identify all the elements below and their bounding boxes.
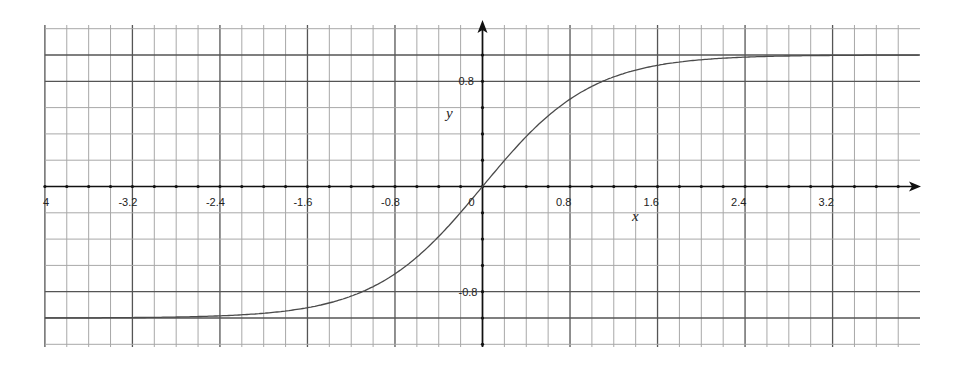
y-tick-mark (481, 238, 484, 241)
x-tick-mark (590, 185, 593, 188)
x-tick-mark (525, 185, 528, 188)
x-tick-mark (853, 185, 856, 188)
x-tick-mark (568, 185, 571, 188)
x-tick-label: 4 (43, 196, 49, 208)
x-tick-mark (109, 185, 112, 188)
x-tick-mark (328, 185, 331, 188)
y-tick-mark (481, 316, 484, 319)
x-tick-mark (700, 185, 703, 188)
y-tick-mark (481, 106, 484, 109)
axes (43, 20, 921, 347)
x-tick-label: 2.4 (731, 196, 746, 208)
x-tick-mark (678, 185, 681, 188)
y-tick-mark (481, 53, 484, 56)
x-tick-mark (240, 185, 243, 188)
x-tick-mark (612, 185, 615, 188)
x-tick-mark (897, 185, 900, 188)
y-tick-mark (481, 132, 484, 135)
x-tick-mark (875, 185, 878, 188)
x-tick-label: 3.2 (819, 196, 834, 208)
x-tick-mark (634, 185, 637, 188)
x-tick-mark (196, 185, 199, 188)
x-tick-mark (787, 185, 790, 188)
y-tick-label: -0.8 (459, 286, 478, 298)
x-tick-mark (831, 185, 834, 188)
x-tick-label: -3.2 (118, 196, 137, 208)
x-tick-mark (415, 185, 418, 188)
x-tick-mark (722, 185, 725, 188)
x-tick-mark (284, 185, 287, 188)
x-tick-mark (547, 185, 550, 188)
x-tick-mark (87, 185, 90, 188)
y-tick-mark (481, 159, 484, 162)
x-tick-label: -0.8 (381, 196, 400, 208)
x-tick-mark (765, 185, 768, 188)
x-tick-mark (350, 185, 353, 188)
y-tick-label: 0.8 (459, 75, 474, 87)
x-tick-mark (65, 185, 68, 188)
x-tick-mark (262, 185, 265, 188)
x-tick-mark (153, 185, 156, 188)
x-tick-mark (656, 185, 659, 188)
x-axis-label: x (631, 208, 639, 224)
y-tick-mark (481, 211, 484, 214)
x-tick-label: 1.6 (644, 196, 659, 208)
x-tick-mark (437, 185, 440, 188)
x-tick-label: -1.6 (293, 196, 312, 208)
x-tick-mark (43, 185, 46, 188)
y-tick-mark (481, 264, 484, 267)
x-tick-mark (503, 185, 506, 188)
x-tick-mark (218, 185, 221, 188)
y-tick-mark (481, 343, 484, 346)
x-tick-mark (175, 185, 178, 188)
x-tick-label: 0 (469, 196, 475, 208)
x-tick-mark (393, 185, 396, 188)
y-tick-mark (481, 80, 484, 83)
x-tick-label: 0.8 (556, 196, 571, 208)
y-axis-label: y (444, 105, 453, 121)
x-tick-mark (306, 185, 309, 188)
x-tick-mark (743, 185, 746, 188)
tanh-chart: 4-3.2-2.4-1.6-0.800.81.62.43.20.8-0.8 x … (0, 0, 956, 370)
x-tick-mark (459, 185, 462, 188)
x-tick-mark (372, 185, 375, 188)
x-tick-mark (809, 185, 812, 188)
y-tick-mark (481, 290, 484, 293)
x-tick-label: -2.4 (206, 196, 225, 208)
x-tick-mark (131, 185, 134, 188)
